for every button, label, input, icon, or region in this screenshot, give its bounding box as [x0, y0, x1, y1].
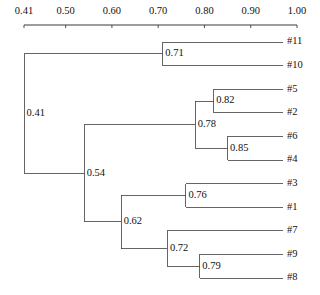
node-value-0.78: 0.78 [198, 118, 216, 129]
leaf-label-n7: #7 [287, 224, 298, 235]
axis-tick-label-6: 1.00 [288, 5, 306, 16]
leaf-label-n3: #3 [287, 177, 298, 188]
axis-tick-label-2: 0.60 [103, 5, 121, 16]
node-value-0.82: 0.82 [216, 94, 234, 105]
node-value-0.72: 0.72 [170, 242, 188, 253]
leaf-label-n11: #11 [287, 35, 302, 46]
leaf-label-n1: #1 [287, 201, 298, 212]
leaf-label-n8: #8 [287, 271, 298, 282]
leaf-label-n4: #4 [287, 153, 298, 164]
dendrogram-canvas: 0.410.500.600.700.800.901.00 0.410.710.5… [0, 0, 320, 295]
axis-tick-label-4: 0.80 [195, 5, 213, 16]
node-value-labels: 0.410.710.540.780.820.850.620.760.720.79 [27, 47, 249, 270]
node-value-0.41: 0.41 [27, 107, 45, 118]
leaf-label-n10: #10 [287, 59, 303, 70]
node-value-0.71: 0.71 [165, 47, 183, 58]
node-value-0.54: 0.54 [87, 167, 106, 178]
axis-tick-label-3: 0.70 [149, 5, 167, 16]
dendrogram-chart: 0.410.500.600.700.800.901.00 0.410.710.5… [0, 0, 320, 295]
leaf-label-n6: #6 [287, 130, 298, 141]
node-value-0.79: 0.79 [202, 260, 220, 271]
node-value-0.62: 0.62 [124, 215, 142, 226]
axis-tick-label-0: 0.41 [15, 5, 33, 16]
leaf-label-n5: #5 [287, 83, 298, 94]
value-axis: 0.410.500.600.700.800.901.00 [15, 5, 306, 28]
dendrogram-branches [24, 42, 283, 278]
leaf-label-n9: #9 [287, 248, 298, 259]
axis-tick-label-1: 0.50 [56, 5, 74, 16]
leaf-labels: #11#10#5#2#6#4#3#1#7#9#8 [287, 35, 303, 282]
leaf-label-n2: #2 [287, 106, 298, 117]
node-value-0.76: 0.76 [188, 189, 206, 200]
node-value-0.85: 0.85 [230, 142, 248, 153]
axis-tick-label-5: 0.90 [242, 5, 260, 16]
